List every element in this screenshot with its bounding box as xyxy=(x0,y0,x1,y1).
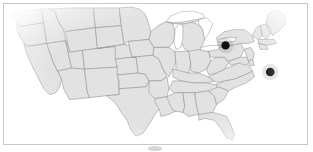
state-florida xyxy=(199,112,235,140)
state-colorado xyxy=(82,46,117,69)
state-shapes xyxy=(11,7,286,140)
map-figure xyxy=(0,0,313,152)
state-minnesota xyxy=(119,7,151,44)
bottom-smudge-artifact xyxy=(148,146,162,151)
state-new-mexico xyxy=(84,67,119,98)
state-indiana xyxy=(175,51,191,73)
map-frame xyxy=(3,3,308,145)
us-map-svg xyxy=(4,4,307,144)
marker-2-dot[interactable] xyxy=(266,68,275,77)
state-wisconsin xyxy=(149,22,175,48)
state-north-dakota xyxy=(93,8,121,28)
state-kansas xyxy=(115,57,138,75)
state-wyoming xyxy=(66,28,98,53)
lake-michigan xyxy=(174,24,183,50)
state-oklahoma xyxy=(117,73,149,89)
state-iowa xyxy=(128,39,154,57)
marker-1-dot[interactable] xyxy=(221,41,229,49)
